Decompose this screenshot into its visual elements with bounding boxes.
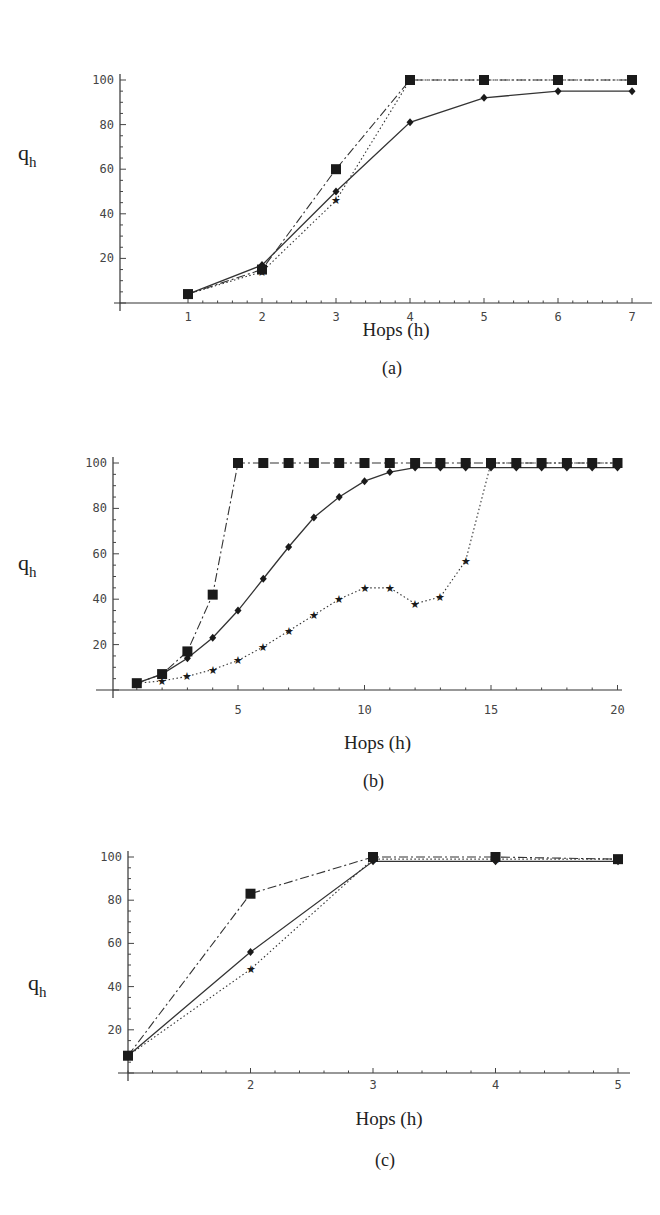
- square-marker: [479, 75, 489, 85]
- square-marker: [233, 458, 243, 468]
- square-marker: [258, 458, 268, 468]
- square-marker: [486, 458, 496, 468]
- star-marker: ★: [491, 853, 501, 865]
- x-tick-label: 10: [357, 703, 371, 717]
- y-axis-title: qh: [28, 970, 47, 1000]
- x-tick-label: 15: [484, 703, 498, 717]
- x-tick-label: 3: [369, 1078, 376, 1092]
- x-tick-label: 5: [234, 703, 241, 717]
- square-marker: [553, 75, 563, 85]
- x-tick-label: 2: [258, 310, 265, 324]
- chart-panel-b: 204060801005101520★★★★★★★★★★★★★★qhHops (…: [18, 456, 625, 792]
- square-marker: [309, 458, 319, 468]
- x-tick-label: 20: [610, 703, 624, 717]
- star-marker: ★: [246, 963, 256, 975]
- star-marker: ★: [435, 591, 445, 603]
- diamond-marker: [481, 94, 488, 102]
- star-marker: ★: [334, 593, 344, 605]
- x-axis-title: Hops (h): [355, 1108, 422, 1130]
- star-marker: ★: [182, 670, 192, 682]
- x-axis-title: Hops (h): [344, 732, 411, 754]
- y-tick-label: 80: [108, 893, 122, 907]
- series-line-dotted-star: [137, 463, 618, 683]
- square-marker: [587, 458, 597, 468]
- series-line-dashdot-square: [188, 80, 632, 294]
- series-line-dotted-star: [128, 859, 618, 1056]
- diamond-marker: [361, 477, 368, 485]
- star-marker: ★: [331, 194, 341, 206]
- square-marker: [627, 75, 637, 85]
- square-marker: [360, 458, 370, 468]
- y-tick-label: 100: [100, 850, 122, 864]
- y-tick-label: 20: [93, 638, 107, 652]
- square-marker: [385, 458, 395, 468]
- star-marker: ★: [123, 1050, 133, 1062]
- square-marker: [334, 458, 344, 468]
- star-marker: ★: [284, 625, 294, 637]
- x-tick-label: 7: [628, 310, 635, 324]
- x-tick-label: 6: [554, 310, 561, 324]
- star-marker: ★: [410, 598, 420, 610]
- y-axis-title: qh: [18, 140, 37, 170]
- star-marker: ★: [258, 641, 268, 653]
- star-marker: ★: [360, 582, 370, 594]
- star-marker: ★: [461, 555, 471, 567]
- star-marker: ★: [309, 609, 319, 621]
- series-line-dashdot-square: [128, 857, 618, 1056]
- square-marker: [246, 889, 256, 899]
- y-tick-label: 40: [100, 207, 114, 221]
- y-tick-label: 60: [93, 547, 107, 561]
- diamond-marker: [555, 87, 562, 95]
- square-marker: [537, 458, 547, 468]
- y-tick-label: 80: [93, 501, 107, 515]
- series-line-dotted-star: [188, 80, 632, 294]
- square-marker: [613, 458, 623, 468]
- x-tick-label: 5: [480, 310, 487, 324]
- square-marker: [331, 164, 341, 174]
- square-marker: [405, 75, 415, 85]
- chart-panel-c: 204060801002345★★★★★qhHops (h)(c): [28, 850, 630, 1171]
- square-marker: [182, 646, 192, 656]
- x-tick-label: 2: [247, 1078, 254, 1092]
- figure-canvas: 204060801001234567★★★qhHops (h)(a) 20406…: [0, 0, 660, 1215]
- x-tick-label: 4: [492, 1078, 499, 1092]
- square-marker: [562, 458, 572, 468]
- star-marker: ★: [385, 582, 395, 594]
- series-line-solid-diamond: [137, 468, 618, 684]
- chart-panel-a: 204060801001234567★★★qhHops (h)(a): [18, 73, 652, 379]
- y-tick-label: 80: [100, 118, 114, 132]
- y-tick-label: 100: [85, 456, 107, 470]
- square-marker: [435, 458, 445, 468]
- star-marker: ★: [368, 853, 378, 865]
- y-tick-label: 40: [93, 592, 107, 606]
- star-marker: ★: [233, 654, 243, 666]
- y-tick-label: 60: [100, 162, 114, 176]
- square-marker: [461, 458, 471, 468]
- x-tick-label: 5: [614, 1078, 621, 1092]
- star-marker: ★: [157, 675, 167, 687]
- diamond-marker: [386, 468, 393, 476]
- star-marker: ★: [257, 266, 267, 278]
- y-tick-label: 60: [108, 936, 122, 950]
- square-marker: [208, 590, 218, 600]
- y-tick-label: 20: [100, 251, 114, 265]
- square-marker: [284, 458, 294, 468]
- star-marker: ★: [132, 677, 142, 689]
- y-tick-label: 100: [92, 73, 114, 87]
- y-axis-title: qh: [18, 550, 37, 580]
- star-marker: ★: [613, 853, 623, 865]
- panel-caption: (b): [363, 771, 384, 792]
- star-marker: ★: [208, 664, 218, 676]
- y-tick-label: 40: [108, 980, 122, 994]
- x-tick-label: 3: [332, 310, 339, 324]
- square-marker: [511, 458, 521, 468]
- series-line-dashdot-square: [137, 463, 618, 683]
- diamond-marker: [629, 87, 636, 95]
- star-marker: ★: [183, 288, 193, 300]
- y-tick-label: 20: [108, 1023, 122, 1037]
- x-tick-label: 1: [184, 310, 191, 324]
- panel-caption: (c): [375, 1150, 395, 1171]
- square-marker: [410, 458, 420, 468]
- panel-caption: (a): [382, 358, 402, 379]
- x-axis-title: Hops (h): [362, 319, 429, 341]
